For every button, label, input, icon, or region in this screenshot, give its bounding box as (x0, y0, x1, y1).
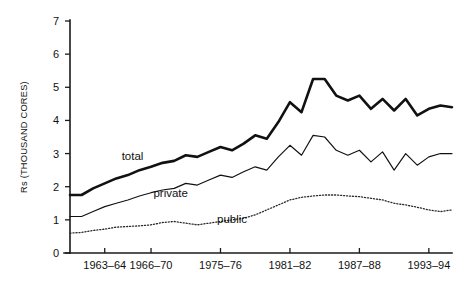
series-label-public: public (217, 213, 247, 225)
y-axis-title-group: Rs (THOUSAND CORES) (19, 81, 29, 193)
series-annotation-group: totalprivatepublic (122, 150, 248, 225)
y-tick-group: 01234567 (53, 15, 70, 259)
x-tick-label: 1966–70 (130, 259, 173, 271)
x-tick-label: 1993–94 (407, 259, 450, 271)
x-tick-label: 1981–82 (269, 259, 312, 271)
x-tick-label: 1987–88 (338, 259, 381, 271)
chart-axes: 01234567 1963–641966–701975–761981–82198… (53, 15, 452, 271)
x-tick-label: 1975–76 (199, 259, 242, 271)
y-tick-label: 5 (53, 81, 59, 93)
y-tick-label: 2 (53, 181, 59, 193)
x-tick-label: 1963–64 (83, 259, 126, 271)
line-chart: 01234567 1963–641966–701975–761981–82198… (0, 0, 464, 286)
series-line-total (70, 79, 452, 195)
y-tick-label: 3 (53, 148, 59, 160)
y-axis-title: Rs (THOUSAND CORES) (19, 81, 29, 193)
x-tick-group: 1963–641966–701975–761981–821987–881993–… (83, 248, 450, 271)
y-tick-label: 7 (53, 15, 59, 27)
series-label-total: total (122, 150, 144, 162)
series-label-private: private (153, 187, 188, 199)
y-tick-label: 0 (53, 247, 59, 259)
y-tick-label: 4 (53, 114, 59, 126)
y-tick-label: 1 (53, 214, 59, 226)
y-tick-label: 6 (53, 48, 59, 60)
